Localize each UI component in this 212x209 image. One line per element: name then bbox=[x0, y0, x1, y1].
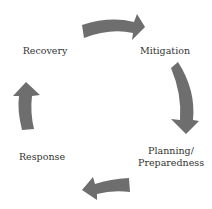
node-recovery-label: Recovery bbox=[22, 45, 68, 57]
node-planning-preparedness-label: Planning/ Preparedness bbox=[138, 145, 204, 169]
node-mitigation-label: Mitigation bbox=[140, 45, 190, 57]
arrow-up-icon bbox=[13, 82, 40, 130]
arrow-right-icon bbox=[82, 14, 145, 40]
cycle-diagram bbox=[0, 0, 212, 209]
node-response-label: Response bbox=[18, 151, 66, 163]
arrow-left-icon bbox=[82, 177, 130, 200]
planning-label-line2: Preparedness bbox=[138, 157, 204, 169]
arrow-down-icon bbox=[171, 62, 199, 134]
planning-label-line1: Planning/ bbox=[138, 145, 204, 157]
